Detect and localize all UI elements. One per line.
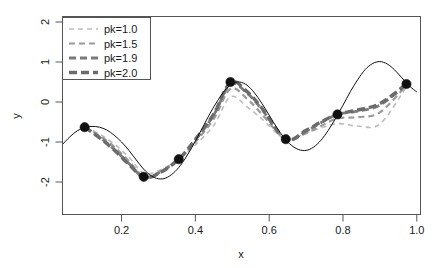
y-tick-label: 2	[39, 19, 51, 25]
legend-label: pk=1.5	[104, 38, 137, 50]
y-tick-label: 0	[39, 99, 51, 105]
knot-point	[281, 135, 290, 144]
knot-point	[174, 155, 183, 164]
knot-point	[402, 79, 411, 88]
y-tick-label: -2	[39, 177, 51, 187]
x-tick-label: 0.4	[188, 224, 203, 236]
x-tick-label: 0.6	[262, 224, 277, 236]
knot-point	[80, 123, 89, 132]
y-axis-title: y	[10, 113, 22, 119]
x-tick-label: 0.8	[335, 224, 350, 236]
x-tick-label: 0.2	[114, 224, 129, 236]
legend[interactable]: pk=1.0pk=1.5pk=1.9pk=2.0	[63, 18, 151, 80]
plot-canvas: 0.20.40.60.81.0 210-1-2 x y pk=1.0pk=1.5…	[0, 0, 432, 268]
knot-point	[226, 77, 235, 86]
legend-label: pk=1.9	[104, 52, 137, 64]
legend-label: pk=2.0	[104, 67, 137, 79]
knot-point	[333, 110, 342, 119]
chart-figure: 0.20.40.60.81.0 210-1-2 x y pk=1.0pk=1.5…	[0, 0, 432, 268]
x-tick-label: 1.0	[409, 224, 424, 236]
legend-label: pk=1.0	[104, 23, 137, 35]
x-axis-title: x	[238, 248, 244, 260]
knot-point	[139, 172, 148, 181]
y-tick-label: -1	[39, 137, 51, 147]
y-tick-label: 1	[39, 59, 51, 65]
